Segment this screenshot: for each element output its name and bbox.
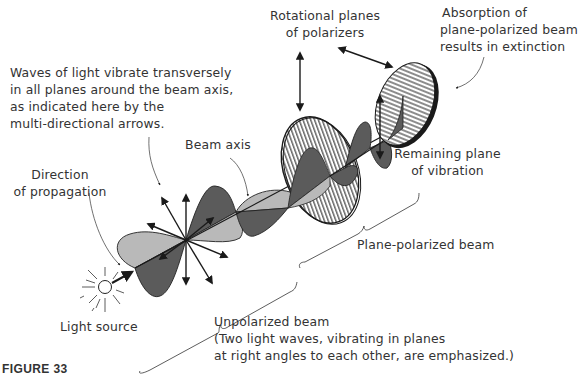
unpolarized-wave-lobes — [117, 186, 294, 297]
absorption-line3: results in extinction — [440, 38, 578, 55]
waves-note-line3: as indicated here by the — [10, 98, 233, 115]
remaining-plane-line2: of vibration — [390, 162, 505, 179]
unpolarized-line1: Unpolarized beam — [214, 313, 514, 330]
horizontal-polarizer — [364, 54, 451, 157]
light-source-icon — [80, 267, 124, 312]
unpolarized-line3: at right angles to each other, are empha… — [214, 347, 514, 364]
unpolarized-line2: (Two light waves, vibrating in planes — [214, 330, 514, 347]
absorption-line2: plane-polarized beam — [440, 21, 578, 38]
polarizer-rotation-arrow — [339, 48, 392, 67]
waves-note-line1: Waves of light vibrate transversely — [10, 64, 233, 81]
direction-line2: of propagation — [0, 183, 120, 200]
light-source-label: Light source — [60, 318, 138, 335]
figure-caption: FIGURE 33 — [2, 362, 68, 376]
rotational-planes-line1: Rotational planes — [270, 7, 380, 24]
absorption-line1: Absorption of — [440, 4, 578, 21]
direction-line1: Direction — [0, 166, 120, 183]
waves-note-label: Waves of light vibrate transversely in a… — [10, 64, 233, 132]
remaining-plane-line1: Remaining plane — [390, 145, 505, 162]
vertical-polarizer — [267, 106, 374, 235]
plane-polarized-beam-label: Plane-polarized beam — [357, 236, 495, 253]
direction-label: Direction of propagation — [0, 166, 120, 200]
rotational-planes-label: Rotational planes of polarizers — [270, 7, 380, 41]
unpolarized-beam-label: Unpolarized beam (Two light waves, vibra… — [214, 313, 514, 364]
propagation-arrow — [112, 272, 132, 283]
rotational-planes-line2: of polarizers — [270, 24, 380, 41]
waves-note-line2: in all planes around the beam axis, — [10, 81, 233, 98]
remaining-plane-label: Remaining plane of vibration — [390, 145, 505, 179]
beam-axis-label: Beam axis — [185, 136, 251, 153]
waves-note-line4: multi-directional arrows. — [10, 115, 233, 132]
absorption-label: Absorption of plane-polarized beam resul… — [440, 4, 578, 55]
